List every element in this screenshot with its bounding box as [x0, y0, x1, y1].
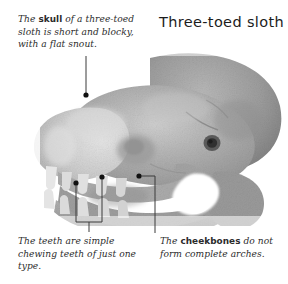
caption-cheekbones-lead: The [160, 236, 180, 246]
caption-skull-lead: The [18, 14, 38, 24]
page-title: Three-toed sloth [159, 14, 287, 30]
caption-skull: The skull of a three-toed sloth is short… [18, 13, 148, 51]
caption-teeth-text: The teeth are simple chewing teeth of ju… [18, 236, 136, 271]
skull-photograph [0, 46, 288, 226]
skull-image-svg [0, 46, 288, 226]
caption-cheekbones: The cheekbones do not form complete arch… [160, 235, 288, 260]
caption-skull-term: skull [38, 14, 62, 24]
figure-page: Three-toed sloth [0, 0, 288, 284]
caption-teeth: The teeth are simple chewing teeth of ju… [18, 235, 143, 273]
caption-cheekbones-term: cheekbones [180, 236, 240, 246]
